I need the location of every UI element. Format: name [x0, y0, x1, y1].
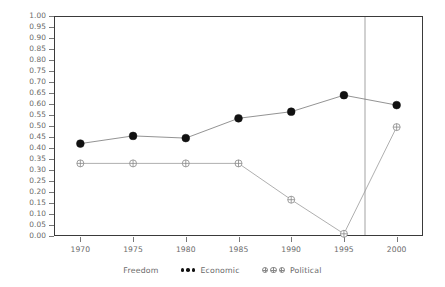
x-axis-tick-label: 1980: [164, 245, 208, 254]
y-axis-tick-label: 0.30: [14, 166, 46, 174]
x-axis-tick-mark: [239, 237, 240, 242]
y-axis-tick-label: 0.75: [14, 67, 46, 75]
y-axis-tick-mark: [49, 159, 54, 160]
y-axis-tick-label: 0.80: [14, 56, 46, 64]
y-axis-tick-label: 0.20: [14, 188, 46, 196]
y-axis-tick-label: 0.70: [14, 78, 46, 86]
legend-label-economic: Economic: [200, 266, 239, 275]
y-axis-tick-mark: [49, 82, 54, 83]
crossed-circle-marker-icon: [262, 267, 285, 273]
x-axis-tick-label: 1975: [111, 245, 155, 254]
y-axis-tick-label: 0.10: [14, 210, 46, 218]
x-axis-tick-mark: [397, 237, 398, 242]
y-axis-tick-label: 0.50: [14, 122, 46, 130]
y-axis-tick-label: 0.90: [14, 34, 46, 42]
legend-title: Freedom: [123, 266, 158, 275]
y-axis-tick-label: 0.35: [14, 155, 46, 163]
y-axis-tick-mark: [49, 192, 54, 193]
legend-entry-economic[interactable]: Economic: [181, 266, 240, 275]
y-axis-tick-mark: [49, 126, 54, 127]
y-axis-tick-label: 0.15: [14, 199, 46, 207]
x-axis-tick-mark: [80, 237, 81, 242]
y-axis-tick-mark: [49, 170, 54, 171]
x-axis-tick-label: 1970: [58, 245, 102, 254]
y-axis-tick-mark: [49, 225, 54, 226]
x-axis-tick-label: 2000: [375, 245, 419, 254]
y-axis-tick-mark: [49, 115, 54, 116]
x-axis-tick-label: 1985: [217, 245, 261, 254]
y-axis-tick-mark: [49, 16, 54, 17]
y-axis-tick-mark: [49, 181, 54, 182]
y-axis-tick-mark: [49, 60, 54, 61]
y-axis-tick-mark: [49, 137, 54, 138]
legend-entry-political[interactable]: Political: [262, 266, 322, 275]
y-axis-tick-mark: [49, 214, 54, 215]
x-axis-tick-mark: [291, 237, 292, 242]
y-axis-tick-label: 0.95: [14, 23, 46, 31]
x-axis-tick-mark: [344, 237, 345, 242]
x-axis-tick-mark: [133, 237, 134, 242]
plot-area: [54, 16, 423, 236]
x-axis-tick-mark: [186, 237, 187, 242]
y-axis-tick-mark: [49, 104, 54, 105]
y-axis-tick-label: 0.40: [14, 144, 46, 152]
y-axis-tick-label: 0.05: [14, 221, 46, 229]
y-axis-tick-label: 0.60: [14, 100, 46, 108]
y-axis-tick-label: 1.00: [14, 12, 46, 20]
y-axis-tick-mark: [49, 203, 54, 204]
y-axis-tick-mark: [49, 93, 54, 94]
y-axis-tick-mark: [49, 49, 54, 50]
y-axis-tick-mark: [49, 38, 54, 39]
chart-legend: Freedom Economic Political: [0, 262, 445, 278]
x-axis-tick-label: 1990: [269, 245, 313, 254]
y-axis-tick-label: 0.85: [14, 45, 46, 53]
y-axis-tick-mark: [49, 148, 54, 149]
y-axis-tick-label: 0.00: [14, 232, 46, 240]
y-axis-tick-label: 0.45: [14, 133, 46, 141]
freedom-index-line-chart: 1.000.950.900.850.800.750.700.650.600.55…: [0, 0, 445, 287]
y-axis-tick-label: 0.55: [14, 111, 46, 119]
y-axis-tick-mark: [49, 236, 54, 237]
y-axis-tick-label: 0.25: [14, 177, 46, 185]
filled-circle-marker-icon: [181, 268, 196, 272]
y-axis-tick-mark: [49, 27, 54, 28]
y-axis-tick-label: 0.65: [14, 89, 46, 97]
legend-label-political: Political: [290, 266, 322, 275]
x-axis-tick-label: 1995: [322, 245, 366, 254]
y-axis-tick-mark: [49, 71, 54, 72]
